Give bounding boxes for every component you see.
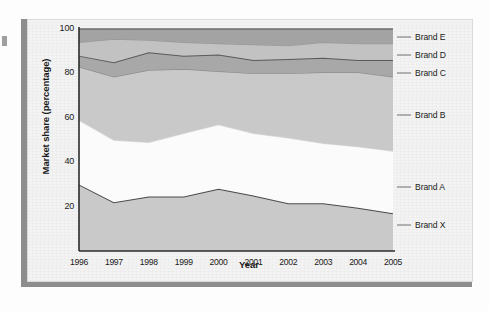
area-bands-group <box>79 29 393 251</box>
scan-edge-artifact <box>2 36 7 46</box>
y-tick-label-60: 60 <box>48 112 74 122</box>
y-tick-label-80: 80 <box>48 67 74 77</box>
label-brand-a: Brand A <box>415 182 445 192</box>
label-brand-d: Brand D <box>415 50 446 60</box>
label-brand-b: Brand B <box>415 110 445 120</box>
figure-root: Market share (percentage) Year 100806040… <box>0 0 489 311</box>
label-brand-e: Brand E <box>415 32 445 42</box>
y-tick-label-40: 40 <box>48 156 74 166</box>
stacked-area-chart: Market share (percentage) Year 100806040… <box>27 19 473 282</box>
x-tick-label-2005: 2005 <box>373 257 413 267</box>
label-brand-x: Brand X <box>415 220 445 230</box>
y-tick-label-20: 20 <box>48 201 74 211</box>
label-brand-c: Brand C <box>415 68 446 78</box>
legend-leader-lines-group <box>397 37 411 225</box>
chart-plot-area <box>27 19 473 282</box>
y-tick-label-100: 100 <box>48 23 74 33</box>
